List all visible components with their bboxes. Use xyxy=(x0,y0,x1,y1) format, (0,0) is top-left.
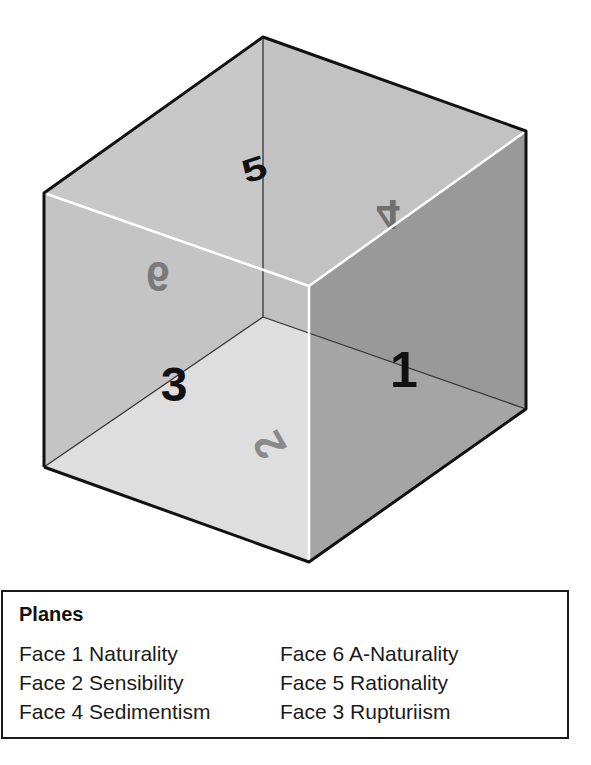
legend-item: Face 5 Rationality xyxy=(280,668,459,697)
face-6-label: 6 xyxy=(146,253,169,300)
face-4-label: 4 xyxy=(376,191,400,238)
legend-item: Face 4 Sedimentism xyxy=(19,697,210,726)
legend-item: Face 2 Sensibility xyxy=(19,668,210,697)
face-1-label: 1 xyxy=(390,342,418,398)
cube-diagram: 6 4 2 5 3 1 xyxy=(0,0,591,590)
legend-item: Face 6 A-Naturality xyxy=(280,639,459,668)
legend-box: Planes Face 1 Naturality Face 2 Sensibil… xyxy=(1,590,569,739)
face-3-label: 3 xyxy=(161,358,188,411)
legend-column-left: Face 1 Naturality Face 2 Sensibility Fac… xyxy=(19,639,210,726)
legend-title: Planes xyxy=(19,603,83,626)
legend-column-right: Face 6 A-Naturality Face 5 Rationality F… xyxy=(280,639,459,726)
legend-item: Face 3 Rupturiism xyxy=(280,697,459,726)
legend-item: Face 1 Naturality xyxy=(19,639,210,668)
